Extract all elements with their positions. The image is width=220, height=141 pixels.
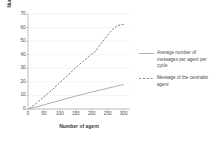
- x-tick-label: 0: [27, 112, 30, 117]
- x-tick-label: 150: [72, 112, 80, 117]
- x-tick-label: 300: [120, 112, 128, 117]
- chart-figure: 010203040506070 050100150200250300 Numbe…: [0, 0, 220, 141]
- y-tick-label: 10: [20, 93, 25, 98]
- y-tick-label: 0: [23, 107, 26, 112]
- y-tick-label: 20: [20, 80, 25, 85]
- y-tick-label: 30: [20, 66, 25, 71]
- x-tick-label: 50: [41, 112, 46, 117]
- legend-item-centralist: Message of the centralist agent: [139, 75, 217, 88]
- x-tick-label: 250: [104, 112, 112, 117]
- legend-line-dashed-icon: [139, 75, 154, 82]
- y-tick-label: 50: [20, 39, 25, 44]
- plot-area: 010203040506070 050100150200250300: [28, 14, 130, 109]
- legend-item-average: Average number of messages per agent per…: [139, 50, 217, 70]
- legend-line-solid-icon: [139, 50, 154, 57]
- legend-label-average: Average number of messages per agent per…: [157, 50, 217, 70]
- series-layer: [28, 14, 130, 109]
- y-axis-title: Number of message: [5, 0, 14, 32]
- x-tick-label: 200: [88, 112, 96, 117]
- x-tick-label: 100: [56, 112, 64, 117]
- legend-label-centralist: Message of the centralist agent: [157, 75, 217, 88]
- y-tick-label: 40: [20, 52, 25, 57]
- y-tick-label: 70: [20, 12, 25, 17]
- chart-legend: Average number of messages per agent per…: [139, 50, 217, 93]
- y-tick-label: 60: [20, 25, 25, 30]
- x-axis-title: Number of agent: [28, 124, 130, 129]
